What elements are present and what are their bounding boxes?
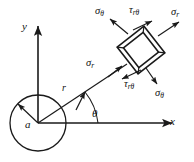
sigma-r-outer-arrow (158, 22, 179, 36)
theta-angle-label: θ (92, 108, 97, 119)
sigma-r-outer-subscript: r (176, 10, 179, 19)
stress-element-diagram: x y a r θ σθ τrθ σr σr τrθ σθ (0, 0, 194, 162)
sigma-r-inner-label: σr (86, 58, 94, 69)
stress-element (117, 26, 165, 74)
sigma-theta-lower-label: σθ (155, 88, 164, 99)
radial-distance-label: r (62, 83, 66, 93)
x-axis-label: x (170, 116, 175, 127)
sigma-r-inner-subscript: r (91, 61, 94, 70)
hole-radius-label: a (25, 119, 31, 130)
sigma-r-outer-label: σr (171, 7, 179, 18)
coordinate-axes (38, 26, 172, 123)
sigma-theta-lower-subscript: θ (160, 91, 163, 100)
sigma-theta-upper-label: σθ (95, 6, 104, 17)
sigma-theta-upper-subscript: θ (100, 9, 103, 18)
y-axis-label: y (22, 21, 27, 32)
sigma-theta-lower-arrow (146, 68, 157, 84)
tau-r-theta-upper-subscript: rθ (133, 8, 139, 17)
sigma-theta-upper-arrow (110, 19, 128, 34)
tau-r-theta-upper-label: τrθ (129, 5, 139, 16)
tau-r-theta-upper-arrow (133, 21, 152, 30)
diagram-canvas (0, 0, 194, 162)
tau-r-theta-lower-subscript: rθ (128, 82, 134, 91)
sigma-r-inner-arrow (108, 66, 122, 77)
tau-r-theta-lower-label: τrθ (124, 79, 134, 90)
